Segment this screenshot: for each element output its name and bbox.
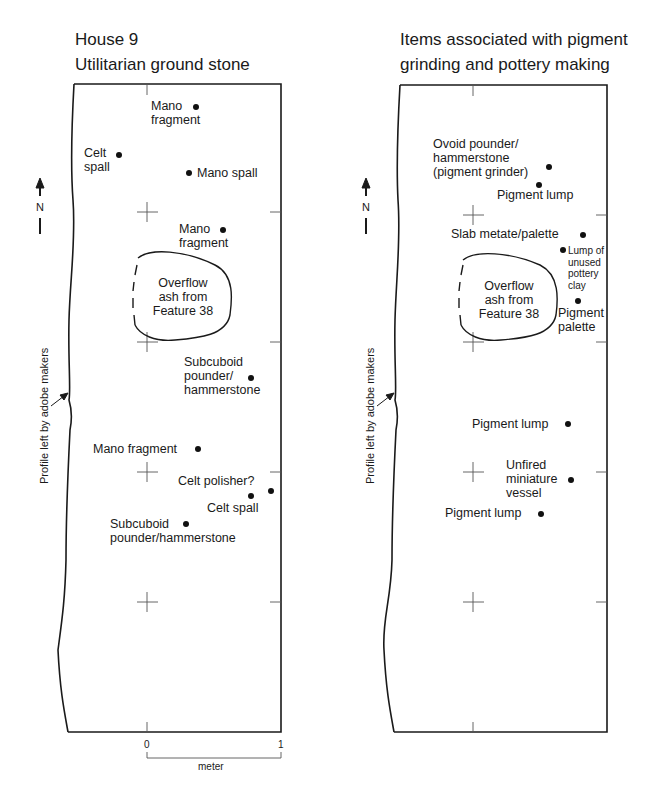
right-point-slab-metate (580, 232, 586, 238)
left-point-mano-fragment-2 (220, 227, 226, 233)
right-item-slab-metate: Slab metate/palette (451, 227, 559, 241)
left-grid-marks (137, 84, 281, 732)
left-item-mano-fragment-3: Mano fragment (93, 442, 177, 456)
right-item-pigment-palette: Pigmentpalette (558, 306, 604, 334)
right-panel-title: Items associated with pigment (400, 30, 628, 49)
left-item-subcuboid-2: Subcuboidpounder/hammerstone (110, 517, 236, 545)
left-panel-title: House 9 (75, 30, 138, 49)
right-profile-arrow (377, 393, 394, 406)
right-item-lump-clay: Lump ofunusedpotteryclay (568, 245, 604, 291)
left-item-mano-fragment-1: Manofragment (151, 99, 200, 127)
right-item-pigment-lump-1: Pigment lump (497, 188, 573, 202)
right-feature-label: Overflow ash from Feature 38 (474, 279, 544, 321)
right-point-ovoid-pounder (546, 164, 552, 170)
right-item-ovoid-pounder: Ovoid pounder/hammerstone(pigment grinde… (433, 137, 528, 179)
right-item-unfired-vessel: Unfiredminiaturevessel (506, 458, 557, 500)
left-item-celt-spall-2: Celt spall (207, 501, 258, 515)
left-feature-label: Overflow ash from Feature 38 (148, 276, 218, 318)
scale-bar (147, 752, 281, 758)
left-point-celt-polisher (268, 488, 274, 494)
map-drawing (0, 0, 659, 803)
left-point-celt-spall-1 (116, 152, 122, 158)
left-point-mano-fragment-3 (195, 446, 201, 452)
left-point-mano-fragment-1 (193, 104, 199, 110)
right-panel-subtitle: grinding and pottery making (400, 55, 610, 74)
left-point-subcuboid-1 (248, 375, 254, 381)
left-item-celt-spall-1: Celtspall (84, 146, 110, 174)
right-point-pigment-lump-3 (538, 511, 544, 517)
left-north-label: N (36, 201, 44, 213)
left-panel-subtitle: Utilitarian ground stone (75, 55, 250, 74)
scale-start-label: 0 (144, 739, 150, 750)
right-grid-marks (463, 85, 607, 732)
right-point-pigment-lump-2 (565, 421, 571, 427)
right-item-pigment-lump-2: Pigment lump (472, 417, 548, 431)
right-point-unfired-vessel (568, 477, 574, 483)
left-item-celt-polisher: Celt polisher? (178, 474, 254, 488)
scale-unit-label: meter (198, 761, 224, 772)
right-house-outline (384, 85, 607, 732)
left-point-mano-spall (186, 170, 192, 176)
left-item-mano-spall: Mano spall (197, 166, 257, 180)
right-item-pigment-lump-3: Pigment lump (445, 506, 521, 520)
left-profile-note: Profile left by adobe makers (38, 348, 50, 484)
left-item-mano-fragment-2: Manofragment (179, 222, 228, 250)
left-point-celt-spall-2 (248, 493, 254, 499)
left-house-outline (58, 84, 281, 732)
right-profile-note: Profile left by adobe makers (364, 348, 376, 484)
right-point-pigment-palette (575, 298, 581, 304)
right-north-label: N (362, 201, 370, 213)
right-point-lump-clay (560, 247, 566, 253)
left-point-subcuboid-2 (183, 521, 189, 527)
scale-end-label: 1 (278, 739, 284, 750)
left-profile-arrow (51, 393, 68, 406)
